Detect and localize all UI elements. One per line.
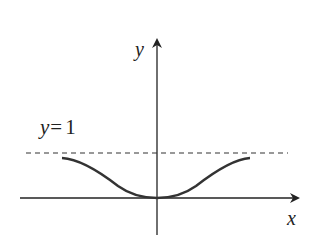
function-curve: [62, 158, 250, 198]
y-axis-label: y: [133, 38, 144, 61]
asymptote-label-var: y: [38, 115, 50, 139]
asymptote-label-val: 1: [65, 115, 76, 139]
asymptote-label: y=1: [38, 115, 76, 139]
function-graph: y x y=1: [0, 0, 319, 246]
x-axis-label: x: [286, 207, 296, 229]
asymptote-label-eq: =: [50, 115, 62, 139]
